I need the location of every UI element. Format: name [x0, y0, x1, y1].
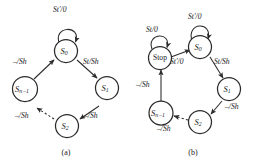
node-b-s1: S1 [218, 78, 241, 101]
edge-label-b-s0-self: St′/0 [188, 12, 202, 21]
panel-b: St/0 St′/0 St′/0 St/Sh –/Sh –/Sh –/Sh St… [0, 0, 260, 164]
state-diagram-figure: St′/0 St/Sh –/Sh –/Sh –/Sh S0 S1 [0, 0, 260, 164]
node-b-s2: S2 [189, 111, 212, 134]
node-b-stop: Stop [149, 47, 172, 70]
caption-b: (b) [188, 148, 198, 157]
node-b-stop-label: Stop [153, 53, 167, 62]
edge-label-b-s0-s1: St/Sh [214, 57, 230, 66]
node-b-s0: S0 [189, 36, 212, 59]
node-b-sn1-sub: n−1 [155, 112, 165, 118]
node-b-sn1: Sn−1 [149, 101, 173, 125]
edge-b-s2-sn1 [174, 116, 188, 120]
node-b-s1-sub: 1 [228, 88, 231, 94]
edge-b-s1-s2 [211, 101, 222, 114]
edge-label-b-stop-self: St/0 [146, 25, 158, 34]
edge-label-b-sn1-stop: –/Sh [135, 80, 150, 89]
node-b-s2-sub: 2 [199, 121, 202, 127]
node-b-s0-sub: 0 [199, 46, 202, 52]
edge-label-b-s1-s2: –/Sh [224, 102, 239, 111]
